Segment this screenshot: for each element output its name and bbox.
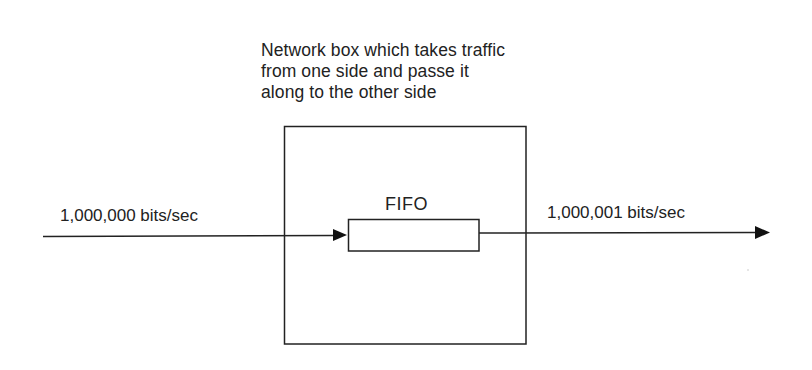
caption-line-1: Network box which takes traffic xyxy=(261,40,505,61)
input-rate-label: 1,000,000 bits/sec xyxy=(60,206,198,226)
scan-speck xyxy=(747,269,748,270)
caption-line-3: along to the other side xyxy=(261,82,505,103)
caption-line-2: from one side and passe it xyxy=(261,61,505,82)
output-arrow-line xyxy=(479,233,757,234)
output-arrowhead-icon xyxy=(755,226,770,239)
fifo-label: FIFO xyxy=(385,194,428,214)
input-arrowhead-icon xyxy=(333,229,347,241)
input-arrow-line xyxy=(43,236,335,237)
network-box-caption: Network box which takes traffic from one… xyxy=(261,40,505,103)
fifo-queue-box xyxy=(349,220,480,252)
output-rate-label: 1,000,001 bits/sec xyxy=(547,203,685,223)
